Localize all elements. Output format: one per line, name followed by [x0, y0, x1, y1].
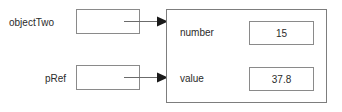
object-reference-diagram: objectTwo pRef number 15 value 37.8 — [0, 0, 342, 112]
object-field-number-value-box: 15 — [249, 21, 314, 45]
object-field-value: value 37.8 — [167, 67, 326, 91]
object-panel: number 15 value 37.8 — [166, 9, 327, 103]
object-field-number-label: number — [180, 28, 214, 38]
reference-label-pref: pRef — [45, 74, 66, 84]
reference-label-objecttwo: objectTwo — [9, 18, 54, 28]
arrow-right-icon — [124, 72, 168, 83]
object-field-value-label: value — [180, 74, 204, 84]
arrow-right-icon — [124, 16, 168, 27]
object-field-value-value: 37.8 — [250, 75, 313, 85]
object-field-value-value-box: 37.8 — [249, 67, 314, 91]
object-field-number-value: 15 — [250, 29, 313, 39]
object-field-number: number 15 — [167, 21, 326, 45]
